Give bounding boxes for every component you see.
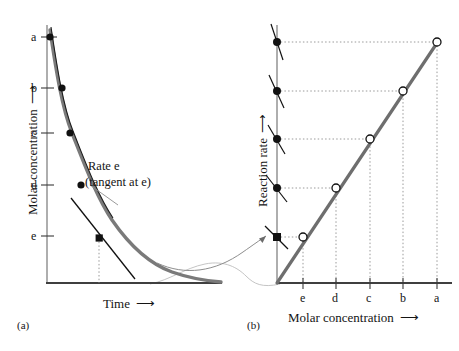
panel-b bbox=[265, 24, 452, 289]
panel-b-rate-dot-b bbox=[273, 87, 281, 95]
panel-a-point-d bbox=[77, 181, 84, 188]
panel-b-x-tick-label-a: a bbox=[434, 292, 439, 304]
panel-b-x-axis-title-text: Molar concentration bbox=[288, 310, 394, 325]
panel-a-annotation-line2: (tangent at e) bbox=[85, 176, 151, 189]
panel-b-y-axis-arrow-icon: ⟶ bbox=[255, 114, 270, 133]
panel-b-rate-dot-c bbox=[273, 135, 281, 143]
panel-a-point-a bbox=[46, 33, 53, 40]
panel-a-y-axis-title: Molar concentration⟶ bbox=[26, 85, 39, 215]
panel-a bbox=[41, 25, 280, 286]
panel-b-x-tick-label-d: d bbox=[332, 292, 338, 304]
panel-a-point-e bbox=[96, 234, 103, 241]
panel-b-point-c bbox=[366, 135, 374, 143]
panel-a-y-tick-label-a: a bbox=[31, 31, 36, 43]
panel-a-point-c bbox=[66, 129, 73, 136]
panel-a-decay-curve bbox=[50, 30, 221, 282]
panel-b-point-b bbox=[399, 87, 407, 95]
panel-b-x-tick-label-c: c bbox=[366, 292, 371, 304]
panel-b-y-axis-title-text: Reaction rate bbox=[255, 138, 270, 207]
kinetics-figure bbox=[0, 0, 459, 351]
panel-a-point-b bbox=[58, 84, 65, 91]
panel-a-x-axis-title: Time⟶ bbox=[103, 297, 155, 310]
panel-b-rate-dot-a bbox=[273, 38, 281, 46]
panel-b-rate-dot-e bbox=[273, 233, 281, 241]
panel-b-rate-line bbox=[277, 40, 439, 283]
panel-a-decay-curve-outline bbox=[51, 27, 113, 218]
panel-b-point-a bbox=[433, 38, 441, 46]
panel-b-label: (b) bbox=[247, 320, 260, 331]
panel-a-x-axis-arrow-icon: ⟶ bbox=[136, 296, 155, 311]
panel-b-point-e bbox=[299, 233, 307, 241]
panel-b-x-axis-title: Molar concentration⟶ bbox=[288, 311, 419, 324]
panel-a-y-tick-label-e: e bbox=[31, 230, 36, 242]
panel-b-point-d bbox=[332, 184, 340, 192]
panel-connector-arrow bbox=[157, 236, 266, 271]
panel-b-y-axis-title: Reaction rate⟶ bbox=[256, 114, 269, 207]
panel-b-x-axis-arrow-icon: ⟶ bbox=[400, 310, 419, 325]
panel-b-rate-dot-d bbox=[273, 184, 281, 192]
panel-a-label: (a) bbox=[17, 320, 29, 331]
panel-a-x-axis-title-text: Time bbox=[103, 296, 130, 311]
panel-a-annotation-line1: Rate e bbox=[88, 160, 120, 173]
panel-a-y-axis-title-text: Molar concentration bbox=[25, 109, 40, 215]
panel-b-x-tick-label-e: e bbox=[300, 292, 305, 304]
panel-b-x-tick-label-b: b bbox=[400, 292, 406, 304]
panel-a-y-axis-arrow-icon: ⟶ bbox=[25, 85, 40, 104]
